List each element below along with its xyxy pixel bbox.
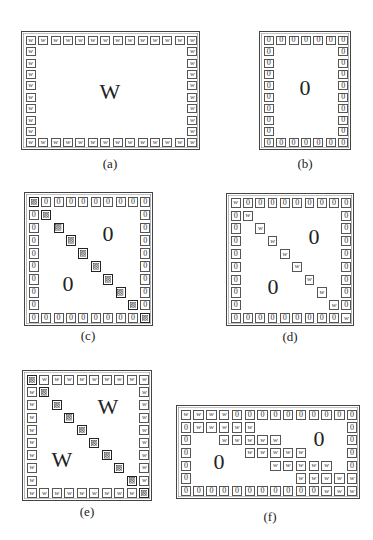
- zero-block-cell: 0: [206, 486, 216, 496]
- diagonal-block-cell: w: [231, 198, 241, 208]
- diagonal-block-cell: [78, 248, 88, 259]
- w-block-cell: w: [162, 36, 172, 45]
- w-block-cell: w: [26, 127, 36, 136]
- zero-block-cell: 0: [41, 313, 51, 324]
- diagonal-block-cell: [139, 488, 149, 498]
- diagonal-block-cell: [128, 300, 138, 311]
- zero-block-cell: 0: [341, 249, 351, 259]
- zero-block-cell: 0: [91, 197, 101, 208]
- w-block-cell: w: [27, 387, 37, 397]
- w-block-cell: w: [139, 476, 149, 486]
- diagonal-block-cell: [114, 463, 124, 473]
- staircase-block-cell: w: [347, 473, 357, 483]
- zero-block-cell: 0: [313, 138, 323, 147]
- zero-block-cell: 0: [103, 313, 113, 324]
- w-block-cell: w: [125, 36, 135, 45]
- zero-block-cell: 0: [29, 287, 39, 298]
- zero-block-cell: 0: [264, 104, 274, 113]
- zero-block-cell: 0: [219, 486, 229, 496]
- zero-block-cell: 0: [231, 262, 241, 272]
- crossed-box-icon: [66, 414, 72, 420]
- staircase-block-cell: w: [283, 461, 293, 471]
- w-block-cell: w: [77, 375, 87, 385]
- w-block-cell: w: [139, 413, 149, 423]
- matrix-panel-c: 0000000000000000000000000000000000: [24, 192, 153, 326]
- zero-block-cell: 0: [140, 287, 150, 298]
- staircase-block-cell: w: [245, 448, 255, 458]
- w-block-cell: w: [139, 463, 149, 473]
- diagonal-block-cell: [52, 400, 62, 410]
- zero-block-cell: 0: [255, 198, 265, 208]
- zero-block-cell: 0: [296, 486, 306, 496]
- w-block-cell: w: [187, 36, 197, 45]
- staircase-block-cell: w: [296, 448, 306, 458]
- w-block-cell: w: [27, 488, 37, 498]
- crossed-box-icon: [91, 440, 97, 446]
- diagonal-block-cell: [41, 210, 51, 221]
- w-block-cell: w: [88, 138, 98, 147]
- zero-block-cell: 0: [305, 313, 315, 323]
- region-symbol: 0: [63, 271, 74, 297]
- diagonal-block-cell: [127, 476, 137, 486]
- w-block-cell: w: [64, 375, 74, 385]
- w-block-cell: w: [187, 81, 197, 90]
- crossed-box-icon: [54, 402, 60, 408]
- diagonal-block-cell: w: [329, 300, 339, 310]
- zero-block-cell: 0: [313, 36, 323, 45]
- zero-block-cell: 0: [231, 287, 241, 297]
- zero-block-cell: 0: [338, 116, 348, 125]
- zero-block-cell: 0: [289, 138, 299, 147]
- matrix-panel-e: wwwwwwwwwwwwwwwwwwwwwwwwwwwwwwwwww: [22, 370, 152, 501]
- zero-block-cell: 0: [309, 486, 319, 496]
- crossed-box-icon: [129, 477, 135, 483]
- w-block-cell: w: [38, 138, 48, 147]
- staircase-block-cell: w: [257, 435, 267, 445]
- diagonal-block-cell: [140, 313, 150, 324]
- zero-block-cell: 0: [347, 461, 357, 471]
- zero-block-cell: 0: [341, 275, 351, 285]
- w-block-cell: w: [26, 59, 36, 68]
- diagonal-block-cell: [66, 235, 76, 246]
- w-block-cell: w: [100, 138, 110, 147]
- w-block-cell: w: [100, 36, 110, 45]
- zero-block-cell: 0: [309, 410, 319, 420]
- zero-block-cell: 0: [326, 36, 336, 45]
- zero-block-cell: 0: [264, 138, 274, 147]
- zero-block-cell: 0: [231, 249, 241, 259]
- crossed-box-icon: [105, 276, 111, 283]
- region-symbol: W: [98, 394, 119, 420]
- staircase-block-cell: w: [232, 435, 242, 445]
- zero-block-cell: 0: [29, 248, 39, 259]
- zero-block-cell: 0: [140, 261, 150, 272]
- zero-block-cell: 0: [257, 410, 267, 420]
- zero-block-cell: 0: [264, 116, 274, 125]
- diagonal-block-cell: [116, 287, 126, 298]
- crossed-box-icon: [104, 452, 110, 458]
- zero-block-cell: 0: [268, 313, 278, 323]
- region-symbol: W: [100, 79, 121, 105]
- zero-block-cell: 0: [128, 313, 138, 324]
- zero-block-cell: 0: [264, 59, 274, 68]
- w-block-cell: w: [127, 488, 137, 498]
- staircase-block-cell: w: [257, 448, 267, 458]
- w-block-cell: w: [139, 375, 149, 385]
- w-block-cell: w: [26, 104, 36, 113]
- panel-caption-b: (b): [297, 156, 312, 172]
- zero-block-cell: 0: [245, 486, 255, 496]
- staircase-block-cell: w: [206, 410, 216, 420]
- staircase-block-cell: w: [193, 410, 203, 420]
- matrix-panel-f: wwww00000000000wwwww00wwwww00wwwww00wwww…: [176, 405, 360, 499]
- crossed-box-icon: [29, 377, 35, 383]
- w-block-cell: w: [187, 138, 197, 147]
- w-block-cell: w: [138, 138, 148, 147]
- w-block-cell: w: [27, 450, 37, 460]
- zero-block-cell: 0: [326, 138, 336, 147]
- w-block-cell: w: [39, 488, 49, 498]
- zero-block-cell: 0: [29, 300, 39, 311]
- w-block-cell: w: [51, 138, 61, 147]
- zero-block-cell: 0: [301, 138, 311, 147]
- zero-block-cell: 0: [334, 410, 344, 420]
- staircase-block-cell: w: [245, 435, 255, 445]
- panel-caption-a: (a): [103, 156, 117, 172]
- zero-block-cell: 0: [292, 198, 302, 208]
